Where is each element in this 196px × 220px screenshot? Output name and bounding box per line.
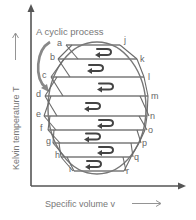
point-label-n: n (150, 111, 155, 121)
point-label-h: h (55, 150, 60, 160)
x-axis-arrow-icon (178, 183, 186, 190)
point-label-e: e (36, 109, 41, 119)
adiabat-left (58, 59, 70, 77)
y-axis-label: Kelvin temperature T (11, 86, 21, 170)
x-axis-label: Specific volume v (45, 199, 116, 209)
cycle-arrow-icon (84, 103, 100, 112)
curved-arrow-icon (38, 42, 50, 92)
point-label-p: p (142, 138, 147, 148)
point-label-i: i (69, 164, 71, 174)
x-label-arrow-icon (132, 201, 161, 207)
point-label-c: c (42, 70, 47, 80)
point-label-b: b (50, 52, 55, 62)
diagram-title: A cyclic process (36, 26, 104, 37)
point-label-d: d (36, 89, 41, 99)
cycle-arrow-icon (97, 147, 113, 156)
point-label-o: o (148, 125, 153, 135)
cyclic-process-diagram: Specific volume v Kelvin temperature T A… (0, 0, 196, 220)
cycle-arrow-icon (85, 161, 101, 170)
point-label-k: k (140, 54, 145, 64)
point-label-a: a (57, 38, 62, 48)
point-label-g: g (46, 136, 51, 146)
adiabat-left (51, 77, 63, 96)
cycle-arrow-icon (87, 65, 103, 74)
point-label-l: l (148, 72, 150, 82)
adiabat-left (66, 45, 78, 59)
adiabat-left (45, 96, 57, 116)
point-label-j: j (123, 35, 126, 45)
cycle-arrow-icon (97, 120, 113, 129)
cycle-arrows (84, 49, 113, 170)
cycle-arrow-icon (95, 49, 111, 58)
point-label-q: q (134, 152, 139, 162)
cycle-arrow-icon (84, 134, 100, 143)
y-label-arrow-icon (13, 33, 19, 60)
y-axis-arrow-icon (28, 4, 35, 12)
cycle-arrow-icon (97, 84, 113, 93)
point-label-r: r (126, 166, 129, 176)
point-label-f: f (40, 123, 43, 133)
point-label-m: m (151, 91, 159, 101)
